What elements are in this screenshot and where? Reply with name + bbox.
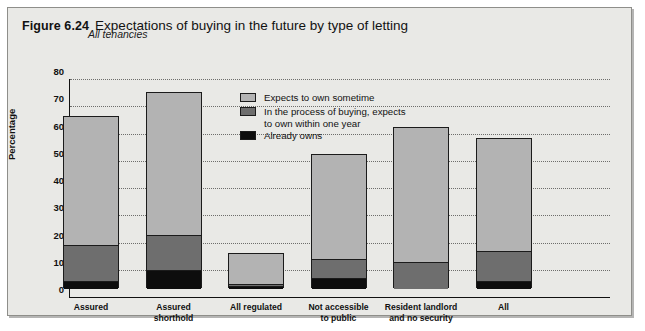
legend-label: Expects to own sometime — [264, 92, 455, 104]
y-tick-label: 60 — [38, 121, 64, 132]
x-axis-label: All — [452, 302, 556, 313]
figure-subtitle: All tenancies — [88, 28, 148, 40]
bar-segment — [147, 93, 201, 235]
y-tick-label: 10 — [38, 257, 64, 268]
y-axis-title: Percentage — [6, 109, 17, 160]
y-tick-label: 30 — [38, 202, 64, 213]
gridline — [70, 79, 610, 80]
bar-segment — [64, 117, 118, 245]
y-tick-label: 40 — [38, 175, 64, 186]
bar-segment — [312, 155, 366, 259]
legend-item[interactable]: In the process of buying, expectsto own … — [240, 106, 455, 129]
x-axis-baseline — [70, 297, 610, 298]
bar-segment — [147, 235, 201, 270]
bar-segment — [312, 259, 366, 278]
bar-segment — [477, 139, 531, 251]
bar-segment — [477, 251, 531, 281]
bar-segment — [64, 245, 118, 280]
x-axis-label-line: and no security — [369, 313, 473, 324]
bar-segment — [229, 254, 283, 284]
bar-segment — [312, 278, 366, 289]
bar-not-accessible-to-public[interactable] — [311, 154, 367, 288]
legend-swatch-icon — [240, 93, 256, 102]
x-axis-label-line: shorthold — [122, 313, 226, 324]
bar-all-regulated[interactable] — [228, 253, 284, 288]
bar-segment — [394, 262, 448, 289]
y-tick-label: 50 — [38, 148, 64, 159]
bar-segment — [64, 281, 118, 289]
x-axis-label-line: All — [452, 302, 556, 313]
legend-label: In the process of buying, expects — [264, 106, 455, 118]
bar-segment — [477, 281, 531, 289]
legend-item[interactable]: Expects to own sometime — [240, 92, 455, 105]
y-tick-label: 0 — [38, 284, 64, 295]
figure-card: Figure 6.24Expectations of buying in the… — [7, 7, 632, 316]
bar-segment — [147, 270, 201, 289]
y-tick-label: 20 — [38, 230, 64, 241]
legend-swatch-icon — [240, 107, 256, 116]
bar-all[interactable] — [476, 138, 532, 288]
bar-assured-shorthold[interactable] — [146, 92, 202, 288]
bar-segment — [394, 128, 448, 262]
bar-assured[interactable] — [63, 116, 119, 288]
legend-swatch-icon — [240, 131, 256, 140]
y-tick-label: 80 — [38, 66, 64, 77]
y-tick-label: 70 — [38, 93, 64, 104]
y-axis-ticks: 01020304050607080 — [30, 8, 64, 331]
bar-resident-landlord-and-no-security[interactable] — [393, 127, 449, 288]
bar-segment — [229, 286, 283, 289]
